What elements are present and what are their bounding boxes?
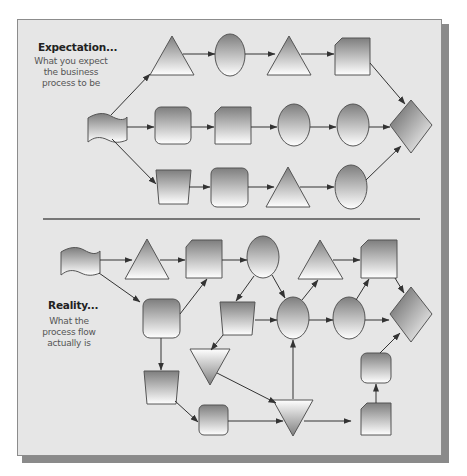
reality-trapezoid-1 bbox=[220, 302, 255, 335]
expectation-ellipse-2 bbox=[278, 104, 310, 146]
reality-card-2 bbox=[361, 240, 397, 278]
reality-card-1 bbox=[186, 240, 222, 278]
expectation-card-2 bbox=[215, 107, 251, 144]
expectation-arrow bbox=[112, 139, 156, 184]
expectation-shapes bbox=[88, 34, 432, 209]
reality-rounded-rect-2 bbox=[199, 405, 228, 435]
reality-arrows bbox=[99, 260, 404, 422]
expectation-ellipse-4 bbox=[335, 165, 367, 209]
expectation-diamond bbox=[390, 100, 432, 153]
reality-rounded-rect-1 bbox=[143, 299, 180, 338]
flow-diagram bbox=[0, 0, 467, 476]
expectation-rounded-rect-1 bbox=[155, 107, 191, 144]
reality-arrow bbox=[175, 401, 198, 422]
reality-arrow bbox=[272, 275, 285, 298]
reality-rounded-rect-3 bbox=[361, 353, 391, 383]
reality-ellipse-1 bbox=[247, 236, 279, 278]
reality-card-3 bbox=[361, 403, 391, 435]
reality-arrow bbox=[380, 333, 400, 353]
reality-arrow bbox=[217, 373, 276, 403]
expectation-start-document bbox=[88, 114, 127, 143]
reality-shapes bbox=[61, 236, 432, 436]
expectation-rounded-rect-2 bbox=[211, 168, 248, 207]
reality-inverted-triangle-1 bbox=[190, 349, 230, 385]
expectation-ellipse-1 bbox=[215, 34, 245, 76]
expectation-trapezoid bbox=[156, 170, 191, 204]
expectation-triangle-1 bbox=[150, 36, 194, 75]
expectation-arrow bbox=[366, 146, 401, 180]
reality-ellipse-2 bbox=[277, 297, 309, 339]
reality-arrow bbox=[395, 278, 404, 293]
expectation-ellipse-3 bbox=[337, 104, 369, 146]
expectation-arrow bbox=[370, 63, 405, 104]
reality-diamond bbox=[390, 287, 432, 342]
reality-ellipse-3 bbox=[333, 297, 365, 339]
reality-inverted-triangle-2 bbox=[273, 400, 313, 436]
reality-trapezoid-2 bbox=[144, 371, 179, 404]
expectation-card-1 bbox=[335, 38, 370, 75]
reality-arrow bbox=[302, 280, 318, 300]
reality-triangle-1 bbox=[125, 239, 169, 279]
reality-start-document bbox=[61, 248, 100, 276]
expectation-arrow bbox=[111, 74, 150, 115]
reality-arrow bbox=[211, 335, 223, 350]
reality-arrow bbox=[236, 276, 254, 301]
expectation-triangle-2 bbox=[267, 36, 311, 75]
reality-arrow bbox=[180, 279, 207, 314]
reality-arrow bbox=[356, 279, 369, 300]
